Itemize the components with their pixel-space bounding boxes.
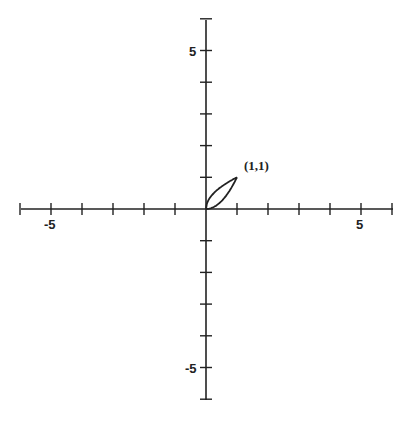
x-tick-label-5: 5 xyxy=(356,217,363,232)
y-tick-label-neg5: -5 xyxy=(185,361,197,376)
y-tick-label-5: 5 xyxy=(189,44,196,59)
point-label-1-1: (1,1) xyxy=(244,158,269,173)
curve-square xyxy=(206,177,237,209)
curve-sqrt xyxy=(206,177,237,209)
coordinate-plane: -5 5 5 -5 (1,1) xyxy=(0,0,406,421)
x-tick-label-neg5: -5 xyxy=(44,217,56,232)
